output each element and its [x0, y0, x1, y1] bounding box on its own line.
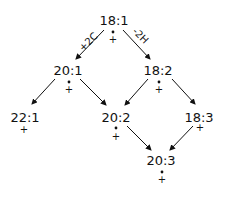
dot-marker: [115, 127, 118, 130]
node-label: 20:1: [53, 63, 82, 78]
edge-20-2-to-20-3: [127, 126, 151, 150]
node-label: 20:3: [146, 153, 175, 168]
node-label: 18:2: [143, 63, 172, 78]
dot-marker: [112, 31, 115, 34]
dot-marker: [158, 81, 161, 84]
fatty-acid-pathway-diagram: +2C -2H 18:1 + 20:1 + 18:2 + 22:1 + 20:2…: [0, 0, 229, 200]
edge-20-1-to-22-1: [32, 79, 55, 104]
node-18-3: 18:3 +: [184, 110, 213, 133]
plus-marker: +: [196, 122, 204, 133]
node-20-1: 20:1 +: [53, 63, 82, 95]
edge-20-1-to-20-2: [80, 79, 106, 105]
plus-marker: +: [20, 124, 28, 135]
plus-marker: +: [112, 131, 120, 142]
plus-marker: +: [155, 84, 163, 95]
node-22-1: 22:1 +: [10, 110, 39, 135]
edge-label-desaturation: -2H: [131, 26, 151, 46]
node-label: 22:1: [10, 110, 39, 125]
edge-18-2-to-18-3: [172, 79, 195, 104]
node-20-2: 20:2 +: [101, 110, 130, 142]
edge-label-elongation: +2C: [77, 30, 100, 53]
dot-marker: [161, 171, 164, 174]
plus-marker: +: [109, 34, 117, 45]
node-label: 20:2: [101, 110, 130, 125]
edge-18-3-to-20-3: [170, 126, 193, 150]
plus-marker: +: [65, 84, 73, 95]
dot-marker: [68, 81, 71, 84]
node-18-1: 18:1 +: [99, 13, 128, 45]
edge-18-2-to-20-2: [125, 79, 148, 105]
plus-marker: +: [158, 174, 166, 185]
node-label: 18:1: [99, 13, 128, 28]
node-20-3: 20:3 +: [146, 153, 175, 185]
